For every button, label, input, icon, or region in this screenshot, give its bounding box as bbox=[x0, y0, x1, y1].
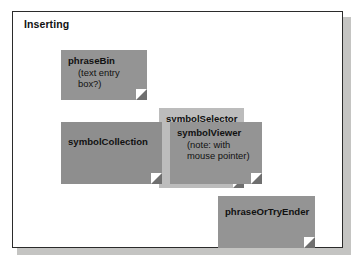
note-title: symbolViewer bbox=[177, 127, 255, 138]
note-phrase-bin[interactable]: phraseBin (text entry box?) bbox=[61, 50, 147, 100]
folded-corner-icon bbox=[251, 173, 262, 184]
note-text: symbolViewer (note: with mouse pointer) bbox=[170, 122, 262, 162]
note-symbol-collection[interactable]: symbolCollection bbox=[61, 122, 162, 184]
note-symbol-viewer[interactable]: symbolViewer (note: with mouse pointer) bbox=[170, 122, 262, 184]
note-text: phraseBin (text entry box?) bbox=[61, 50, 147, 90]
diagram-canvas: Inserting phraseBin (text entry box?) sy… bbox=[0, 0, 357, 267]
note-text: symbolCollection bbox=[61, 122, 162, 147]
note-subtitle: (note: with mouse pointer) bbox=[177, 139, 255, 161]
folded-corner-icon bbox=[151, 173, 162, 184]
frame-title: Inserting bbox=[24, 18, 69, 30]
note-phrase-or-try-ender[interactable]: phraseOrTryEnder bbox=[218, 196, 315, 248]
note-title: symbolCollection bbox=[68, 127, 155, 147]
diagram-frame: Inserting phraseBin (text entry box?) sy… bbox=[12, 11, 343, 248]
folded-corner-icon bbox=[136, 89, 147, 100]
folded-corner-icon bbox=[304, 237, 315, 248]
note-subtitle: (text entry box?) bbox=[68, 67, 140, 89]
note-text: phraseOrTryEnder bbox=[218, 196, 315, 217]
note-title: phraseBin bbox=[68, 55, 140, 66]
note-title: phraseOrTryEnder bbox=[225, 201, 308, 217]
